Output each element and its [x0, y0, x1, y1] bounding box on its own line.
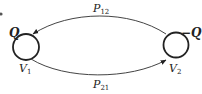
arrow-p21 — [31, 59, 166, 75]
edge-label-p12: P12 — [93, 3, 109, 16]
charge-label-v2: −Q — [181, 27, 202, 39]
node-label-v1: V1 — [19, 63, 31, 76]
edge-label-p21: P21 — [93, 79, 109, 92]
node-label-v2: V2 — [169, 63, 181, 76]
arrow-p12 — [33, 16, 166, 34]
stray-dot — [0, 12, 3, 15]
charge-label-v1: Q — [9, 27, 19, 39]
capacitor-conductor-diagram: Q V1 −Q V2 P12 P21 — [0, 0, 202, 94]
